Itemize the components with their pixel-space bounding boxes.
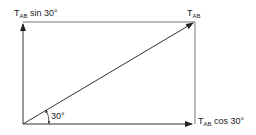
angle-label: 30° xyxy=(51,112,65,121)
vector-diagram xyxy=(0,0,256,135)
resultant-arrow xyxy=(23,23,193,124)
resultant-label: TAB xyxy=(187,9,201,19)
vertical-component-label: TAB sin 30° xyxy=(14,9,58,19)
horizontal-component-label: TAB cos 30° xyxy=(198,117,244,127)
